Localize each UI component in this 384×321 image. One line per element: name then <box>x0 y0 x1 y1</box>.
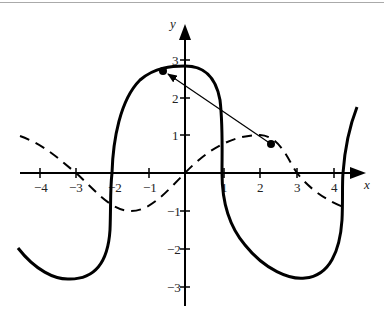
y-tick-label: −2 <box>167 242 181 257</box>
graph: −4 −3 −2 −1 1 2 3 4 x 3 2 1 −1 −2 −3 y <box>0 0 384 321</box>
x-tick-label: 2 <box>257 180 264 195</box>
x-tick-label: −1 <box>143 180 157 195</box>
y-tick-label: −3 <box>167 280 181 295</box>
y-tick-label: 2 <box>172 91 179 106</box>
y-tick-label: −1 <box>167 204 181 219</box>
arrow-end-point <box>159 67 167 75</box>
x-axis: −4 −3 −2 −1 1 2 3 4 x <box>20 167 370 195</box>
arrow-start-point <box>267 140 275 148</box>
x-tick-label: 3 <box>294 180 301 195</box>
x-tick-label: −3 <box>69 180 83 195</box>
y-tick-label: 1 <box>172 128 179 143</box>
x-tick-label: 4 <box>331 180 338 195</box>
y-axis: 3 2 1 −1 −2 −3 y <box>167 16 191 306</box>
x-axis-label: x <box>363 177 370 192</box>
y-axis-label: y <box>168 16 176 31</box>
y-axis-arrow-icon <box>179 24 191 40</box>
x-tick-label: −4 <box>34 180 48 195</box>
